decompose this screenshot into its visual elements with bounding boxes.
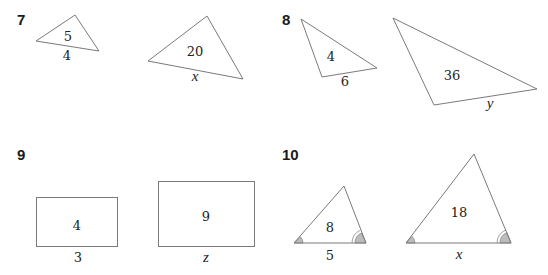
figure-canvas: 7 5 4 20 x 8 4 6 36 y 9 4 3 9 z 10 8 5 <box>0 0 548 275</box>
small-area-label-7: 5 <box>64 29 72 44</box>
problem-10: 10 8 5 18 x <box>282 146 511 263</box>
large-side-label-7: x <box>191 68 199 84</box>
large-area-label-7: 20 <box>187 44 204 59</box>
large-area-label-9: 9 <box>202 209 210 224</box>
large-side-label-10: x <box>455 246 463 262</box>
small-side-label-10: 5 <box>326 248 334 263</box>
problem-number-10: 10 <box>282 146 299 163</box>
problem-8: 8 4 6 36 y <box>282 11 537 111</box>
large-triangle-8 <box>393 18 537 105</box>
large-side-label-8: y <box>485 95 494 111</box>
small-side-label-7: 4 <box>63 48 71 63</box>
large-area-label-8: 36 <box>444 68 461 83</box>
problem-number-8: 8 <box>282 11 290 28</box>
large-triangle-10 <box>406 154 511 243</box>
small-area-label-10: 8 <box>326 220 334 235</box>
small-area-label-9: 4 <box>73 218 81 233</box>
small-area-label-8: 4 <box>327 49 335 64</box>
problem-number-9: 9 <box>17 146 25 163</box>
small-triangle-8 <box>301 19 377 77</box>
large-area-label-10: 18 <box>451 205 468 220</box>
large-side-label-9: z <box>202 249 209 265</box>
problem-7: 7 5 4 20 x <box>17 11 243 84</box>
small-side-label-9: 3 <box>74 250 82 265</box>
problem-number-7: 7 <box>17 11 25 28</box>
problem-9: 9 4 3 9 z <box>17 146 255 265</box>
small-side-label-8: 6 <box>341 74 349 89</box>
